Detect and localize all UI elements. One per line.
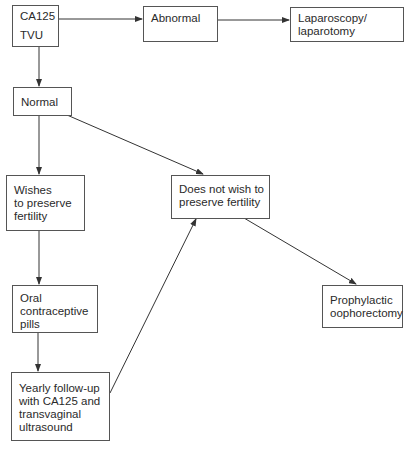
arrow-no-fertility-to-oophorectomy (244, 218, 356, 284)
node-text: to preserve (14, 197, 78, 210)
node-text: contraceptive (20, 305, 91, 318)
node-text: CA125 (20, 10, 52, 23)
node-text: Laparoscopy/ (298, 12, 397, 25)
node-text: fertility (14, 210, 78, 223)
arrow-followup-to-no-fertility (110, 219, 196, 393)
node-text: Oral (20, 292, 91, 305)
node-text: Yearly follow-up (19, 382, 103, 395)
flowchart: CA125 TVU Abnormal Laparoscopy/ laparoto… (0, 0, 414, 450)
node-wishes-fertility: Wishes to preserve fertility (6, 175, 85, 231)
node-no-fertility: Does not wish to preserve fertility (171, 175, 270, 219)
node-text: laparotomy (298, 25, 397, 38)
arrow-normal-to-no-fertility (67, 115, 203, 174)
node-text: pills (20, 318, 91, 331)
node-text: Abnormal (151, 12, 211, 25)
node-text: Does not wish to (179, 183, 263, 196)
node-text: with CA125 and (19, 395, 103, 408)
node-text: oophorectomy (330, 307, 396, 320)
node-oral-contraceptive-pills: Oral contraceptive pills (12, 285, 98, 333)
node-normal: Normal (13, 87, 72, 116)
node-text: preserve fertility (179, 196, 263, 209)
node-prophylactic-oophorectomy: Prophylactic oophorectomy (322, 285, 403, 328)
node-surgery: Laparoscopy/ laparotomy (290, 7, 404, 42)
node-text: Normal (21, 96, 65, 109)
node-yearly-followup: Yearly follow-up with CA125 and transvag… (11, 372, 110, 441)
node-text: ultrasound (19, 421, 103, 434)
node-abnormal: Abnormal (143, 6, 218, 42)
node-text: Prophylactic (330, 294, 396, 307)
node-text: Wishes (14, 184, 78, 197)
node-text: TVU (20, 29, 52, 42)
node-screening: CA125 TVU (12, 5, 59, 47)
node-text: transvaginal (19, 408, 103, 421)
